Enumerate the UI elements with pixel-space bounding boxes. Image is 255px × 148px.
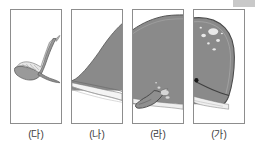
tail-fluke-shape bbox=[14, 36, 60, 83]
whale-rear-body-illustration bbox=[72, 10, 122, 123]
panel-label-tail: (다) bbox=[10, 128, 62, 142]
head-shape bbox=[194, 18, 234, 110]
panel-label-rear-body: (나) bbox=[71, 128, 123, 142]
whale-mid-body-illustration bbox=[133, 10, 183, 123]
panel-mid-body[interactable] bbox=[132, 9, 184, 124]
rear-body-shape bbox=[72, 24, 122, 103]
panel-label-head: (가) bbox=[193, 128, 245, 142]
panel-head[interactable] bbox=[193, 9, 245, 124]
scan-artifact bbox=[233, 0, 255, 7]
panel-rear-body[interactable] bbox=[71, 9, 123, 124]
panel-label-row: (다) (나) (라) (가) bbox=[0, 128, 255, 148]
whale-tail-illustration bbox=[11, 10, 61, 123]
panel-label-mid-body: (라) bbox=[132, 128, 184, 142]
mid-body-shape bbox=[133, 15, 183, 109]
whale-head-illustration bbox=[194, 10, 244, 123]
panel-strip bbox=[0, 0, 255, 128]
eye bbox=[194, 78, 198, 82]
whale-panel-figure: (다) (나) (라) (가) bbox=[0, 0, 255, 148]
panel-tail[interactable] bbox=[10, 9, 62, 124]
